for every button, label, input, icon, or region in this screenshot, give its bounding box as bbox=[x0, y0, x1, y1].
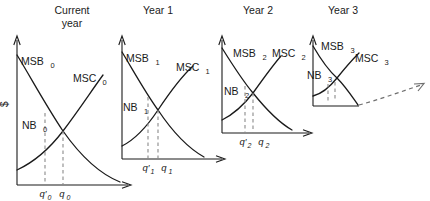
label-msb-year-1: MSB 1 bbox=[126, 52, 160, 67]
svg-text:MSC: MSC bbox=[272, 47, 296, 59]
panel-year-2: Year 2 MSB 2 MSC 2 NB 2 q′ bbox=[219, 4, 312, 149]
panel-title-year-3: Year 3 bbox=[328, 4, 358, 16]
svg-text:0: 0 bbox=[67, 194, 71, 201]
svg-text:NB: NB bbox=[307, 69, 322, 81]
svg-text:1: 1 bbox=[156, 58, 160, 67]
svg-text:MSC: MSC bbox=[73, 72, 97, 84]
svg-text:MSC: MSC bbox=[176, 61, 200, 73]
svg-text:q: q bbox=[161, 162, 167, 173]
svg-text:0: 0 bbox=[48, 194, 52, 201]
label-msc-year-1: MSC 1 bbox=[176, 61, 210, 76]
tick-qprime-year-2: q′ 2 bbox=[239, 136, 251, 149]
panel-title-year-2: Year 2 bbox=[243, 4, 273, 16]
tick-q-year-1: q 1 bbox=[161, 162, 172, 175]
svg-text:MSB: MSB bbox=[126, 52, 149, 64]
trend-arrow bbox=[359, 84, 424, 106]
label-msb-year-2: MSB 2 bbox=[233, 47, 267, 62]
svg-text:NB: NB bbox=[123, 101, 138, 113]
y-axis-label-dollar: $ bbox=[0, 101, 10, 107]
svg-text:0: 0 bbox=[43, 125, 47, 134]
svg-text:q: q bbox=[258, 136, 264, 147]
figure-canvas: Current year $ MSB 0 MSC 0 bbox=[0, 0, 430, 201]
svg-text:1: 1 bbox=[144, 107, 148, 116]
svg-text:q′: q′ bbox=[142, 162, 150, 173]
svg-text:NB: NB bbox=[22, 119, 37, 131]
svg-text:2: 2 bbox=[263, 53, 267, 62]
tick-qprime-current-year: q′ 0 bbox=[39, 188, 51, 201]
tick-q-current-year: q 0 bbox=[59, 188, 70, 201]
label-nb-current-year: NB 0 bbox=[22, 119, 47, 134]
panel-year-3: Year 3 MSB 3 MSC 3 NB 3 bbox=[307, 4, 389, 106]
label-msb-current-year: MSB 0 bbox=[21, 55, 55, 70]
tick-qprime-year-1: q′ 1 bbox=[142, 162, 154, 175]
svg-text:3: 3 bbox=[328, 75, 332, 84]
svg-text:1: 1 bbox=[169, 168, 173, 175]
label-nb-year-3: NB 3 bbox=[307, 69, 332, 84]
label-nb-year-1: NB 1 bbox=[123, 101, 148, 116]
svg-text:MSB: MSB bbox=[321, 40, 344, 52]
label-msb-year-3: MSB 3 bbox=[321, 40, 355, 55]
trend-arrow-head bbox=[414, 84, 424, 92]
svg-text:MSB: MSB bbox=[21, 55, 44, 67]
svg-text:q′: q′ bbox=[239, 136, 247, 147]
label-msc-year-3: MSC 3 bbox=[355, 52, 389, 67]
svg-text:0: 0 bbox=[103, 78, 107, 87]
trend-arrow-line bbox=[359, 85, 421, 105]
svg-text:2: 2 bbox=[245, 91, 249, 100]
panel-title-current-year-line2: year bbox=[62, 17, 83, 29]
panel-title-current-year-line1: Current bbox=[54, 4, 89, 16]
tick-q-year-2: q 2 bbox=[258, 136, 269, 149]
panel-year-1: Year 1 MSB 1 MSC 1 NB 1 q′ bbox=[119, 4, 225, 175]
panel-title-year-1: Year 1 bbox=[143, 4, 173, 16]
panel-current-year: Current year $ MSB 0 MSC 0 bbox=[0, 4, 131, 201]
svg-text:1: 1 bbox=[206, 67, 210, 76]
svg-text:2: 2 bbox=[302, 53, 306, 62]
svg-text:2: 2 bbox=[247, 142, 252, 149]
svg-text:3: 3 bbox=[385, 58, 389, 67]
svg-text:MSC: MSC bbox=[355, 52, 379, 64]
svg-text:q′: q′ bbox=[39, 188, 47, 199]
svg-text:0: 0 bbox=[51, 61, 55, 70]
svg-text:q: q bbox=[59, 188, 65, 199]
svg-text:2: 2 bbox=[265, 142, 270, 149]
svg-text:NB: NB bbox=[224, 85, 239, 97]
label-msc-current-year: MSC 0 bbox=[73, 72, 107, 87]
svg-text:1: 1 bbox=[151, 168, 155, 175]
svg-text:MSB: MSB bbox=[233, 47, 256, 59]
